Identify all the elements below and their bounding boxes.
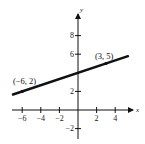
x-tick-label: −4	[37, 114, 46, 123]
y-tick-label: 8	[70, 31, 74, 40]
x-axis-label: x	[135, 106, 140, 114]
y-tick-label: −2	[65, 124, 74, 133]
y-tick-labels: 8 6 2 −2	[65, 31, 74, 133]
x-tick-labels: −6 −4 −2 2 4	[18, 114, 117, 123]
x-tick-label: −2	[55, 114, 64, 123]
point-label-3-5: (3, 5)	[95, 51, 114, 61]
x-tick-label: −6	[18, 114, 27, 123]
coordinate-plot: x −6 −4 −2 2 4 y 8 6 2 −2	[0, 0, 145, 144]
x-tick-label: 2	[95, 114, 99, 123]
y-tick-label: 2	[70, 87, 74, 96]
x-tick-label: 4	[113, 114, 117, 123]
y-axis-label: y	[79, 6, 84, 14]
annotations: (−6, 2) (3, 5)	[13, 51, 114, 86]
point-marker-3-5	[104, 62, 107, 65]
y-tick-label: 6	[70, 50, 74, 59]
point-marker-neg6-2	[21, 90, 24, 93]
x-axis: x −6 −4 −2 2 4	[12, 106, 140, 123]
point-label-neg6-2: (−6, 2)	[13, 76, 36, 86]
